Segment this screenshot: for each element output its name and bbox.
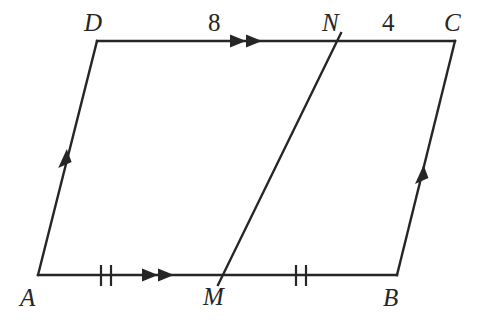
vertex-label-C: C <box>444 10 461 35</box>
segment-BC <box>397 41 455 275</box>
vertex-label-M: M <box>203 284 224 309</box>
bc-single-arrow-icon <box>415 165 428 184</box>
am-double-arrow-icon <box>142 269 174 282</box>
measure-label-DN: 8 <box>208 10 221 35</box>
dn-double-arrow-icon <box>230 35 262 48</box>
measure-label-NC: 4 <box>382 10 395 35</box>
vertex-label-B: B <box>383 285 398 310</box>
segment-MN <box>218 33 341 285</box>
vertex-label-D: D <box>84 10 102 35</box>
geometry-figure: D N C A M B 8 4 <box>0 0 485 323</box>
geometry-canvas <box>0 0 485 323</box>
vertex-label-A: A <box>20 285 35 310</box>
vertex-label-N: N <box>322 10 339 35</box>
